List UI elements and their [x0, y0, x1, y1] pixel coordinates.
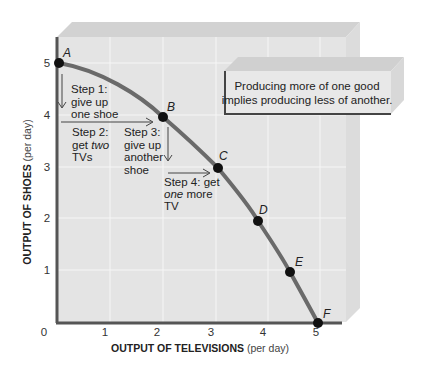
y-tick-3: 3 [44, 161, 50, 173]
callout-line-2: implies producing less of another. [222, 94, 393, 106]
step2-line1: Step 2: [72, 126, 108, 138]
step2-line3: TVs [72, 151, 93, 163]
x-tick-4: 4 [260, 326, 267, 338]
step4-one: one [164, 188, 183, 200]
x-tick-0: 0 [41, 326, 47, 338]
y-tick-1: 1 [44, 264, 50, 276]
label-d: D [259, 203, 268, 217]
y-tick-5: 5 [44, 57, 50, 69]
step3-line3: another [124, 151, 163, 163]
step2-line2: get two [72, 139, 110, 151]
x-tick-2: 2 [154, 326, 160, 338]
label-f: F [323, 307, 331, 321]
x-axis-title-bold: OUTPUT OF TELEVISIONS [111, 342, 244, 354]
step2-get: get [72, 139, 91, 151]
step4-line3: TV [164, 200, 179, 212]
panel-top-bevel [57, 22, 360, 37]
step3-line1: Step 3: [124, 126, 160, 138]
step3-line4: shoe [124, 164, 149, 176]
y-tick-4: 4 [44, 109, 51, 121]
step4-more: more [183, 188, 212, 200]
x-tick-3: 3 [208, 326, 214, 338]
step1-line2: give up [71, 96, 108, 108]
point-c [213, 163, 223, 173]
label-a: A [62, 46, 71, 60]
x-tick-5: 5 [313, 326, 319, 338]
y-axis-title: OUTPUT OF SHOES (per day) [21, 119, 33, 264]
callout-box: Producing more of one good implies produ… [222, 57, 404, 114]
step2-two: two [91, 139, 110, 151]
step1-line1: Step 1: [71, 83, 107, 95]
step4-line2: one more [164, 188, 213, 200]
point-e [285, 267, 295, 277]
x-axis-title-unit: (per day) [244, 342, 289, 354]
ppf-chart: Producing more of one good implies produ… [0, 0, 426, 373]
y-axis-title-bold: OUTPUT OF SHOES [21, 164, 33, 264]
y-tick-2: 2 [44, 212, 50, 224]
x-tick-1: 1 [102, 326, 108, 338]
step3-line2: give up [124, 139, 161, 151]
label-e: E [295, 255, 304, 269]
step4-line1: Step 4: get [164, 176, 220, 188]
callout-line-1: Producing more of one good [234, 80, 379, 92]
x-axis-title: OUTPUT OF TELEVISIONS (per day) [111, 342, 289, 354]
point-d [253, 216, 263, 226]
step1-line3: one shoe [71, 108, 118, 120]
label-b: B [167, 100, 175, 114]
label-c: C [219, 149, 228, 163]
y-axis-title-unit: (per day) [21, 119, 33, 164]
